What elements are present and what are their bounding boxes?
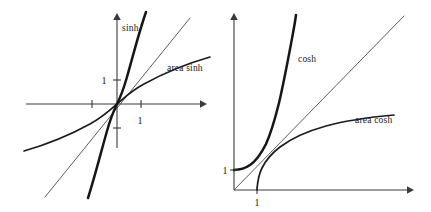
right-x-tick-label-1: 1 <box>255 197 260 208</box>
right-label-area-cosh: area cosh <box>355 115 392 125</box>
hyperbolic-functions-figure: sinh area sinh 1 1 cosh area cosh 1 1 <box>0 0 431 212</box>
right-panel-cosh: cosh area cosh 1 1 <box>0 0 431 212</box>
right-curve-cosh <box>234 15 296 170</box>
right-curve-area-cosh <box>257 115 394 190</box>
right-x-axis-arrowhead <box>407 186 414 194</box>
right-y-axis-arrowhead <box>230 13 238 20</box>
right-y-tick-label-1: 1 <box>223 165 228 176</box>
right-identity-line <box>234 16 404 190</box>
right-label-cosh: cosh <box>298 54 316 64</box>
